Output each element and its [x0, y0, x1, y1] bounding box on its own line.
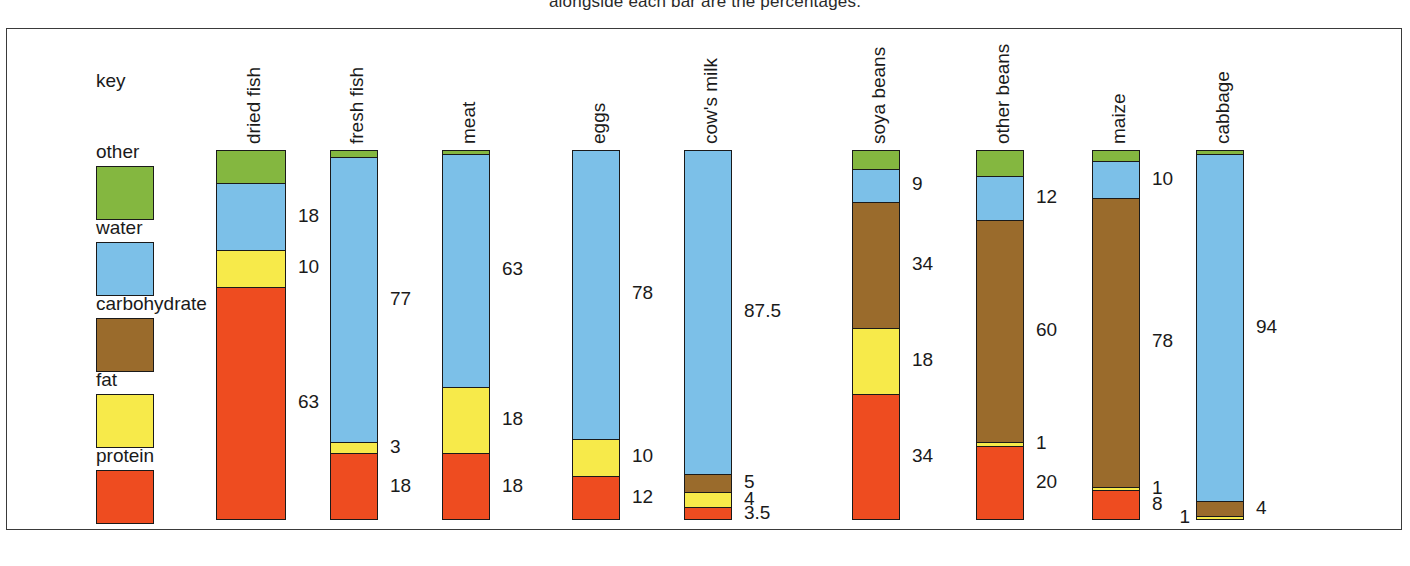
legend-item-label: other — [96, 140, 154, 164]
bar-segment-carbohydrate — [1197, 502, 1243, 517]
legend-item-fat: fat — [96, 368, 154, 448]
bar-value-label: 3 — [390, 436, 401, 458]
bar-segment-other — [217, 151, 285, 184]
stacked-bar — [442, 150, 490, 520]
bar-segment-protein — [443, 454, 489, 520]
legend-swatch-other — [96, 166, 154, 220]
bar-segment-fat — [573, 440, 619, 477]
bar-value-label: 78 — [632, 282, 653, 304]
bar-value-label: 10 — [632, 445, 653, 467]
bar-segment-water — [1093, 162, 1139, 199]
bar-category-label: other beans — [992, 44, 1014, 144]
bar-category-label: soya beans — [868, 47, 890, 144]
legend-item-water: water — [96, 216, 154, 296]
bar-column-dried-fish: dried fish — [216, 150, 286, 520]
bar-value-label: 18 — [912, 349, 933, 371]
legend-item-protein: protein — [96, 444, 154, 524]
legend-item-carbohydrate: carbohydrate — [96, 292, 207, 372]
bar-segment-protein — [1093, 491, 1139, 520]
bar-value-label: 34 — [912, 445, 933, 467]
bar-segment-carbohydrate — [1093, 199, 1139, 488]
legend-item-label: water — [96, 216, 154, 240]
bar-column-soya-beans: soya beans — [852, 150, 900, 520]
bar-segment-other — [977, 151, 1023, 177]
bar-segment-fat — [331, 443, 377, 454]
bar-segment-protein — [217, 288, 285, 520]
bar-value-label: 10 — [298, 256, 319, 278]
bar-column-meat: meat — [442, 150, 490, 520]
legend-item-other: other — [96, 140, 154, 220]
stacked-bar — [216, 150, 286, 520]
bar-segment-water — [1197, 155, 1243, 503]
bar-column-other-beans: other beans — [976, 150, 1024, 520]
bar-column-maize: maize — [1092, 150, 1140, 520]
bar-category-label: fresh fish — [346, 67, 368, 144]
bar-value-label: 87.5 — [744, 300, 781, 322]
bar-segment-fat — [685, 493, 731, 508]
bar-segment-protein — [685, 508, 731, 520]
bar-segment-water — [685, 151, 731, 475]
bar-segment-other — [331, 151, 377, 158]
bar-category-label: maize — [1108, 93, 1130, 144]
bar-segment-water — [853, 170, 899, 203]
bar-segment-other — [1093, 151, 1139, 162]
stacked-bar — [684, 150, 732, 520]
bar-segment-water — [977, 177, 1023, 221]
legend-swatch-protein — [96, 470, 154, 524]
bar-segment-carbohydrate — [685, 475, 731, 494]
bar-value-label: 78 — [1152, 330, 1173, 352]
bar-column-fresh-fish: fresh fish — [330, 150, 378, 520]
bar-value-label: 8 — [1152, 493, 1163, 515]
stacked-bar — [330, 150, 378, 520]
stacked-bar — [572, 150, 620, 520]
page-caption: alongside each bar are the percentages. — [0, 0, 1410, 12]
bar-value-label: 18 — [502, 475, 523, 497]
bar-value-label: 34 — [912, 253, 933, 275]
stacked-bar — [852, 150, 900, 520]
legend-item-label: fat — [96, 368, 154, 392]
bar-value-label: 63 — [502, 258, 523, 280]
bar-value-label: 12 — [1036, 186, 1057, 208]
bar-category-label: eggs — [588, 103, 610, 144]
bar-segment-fat — [1197, 517, 1243, 520]
bar-value-label: 77 — [390, 288, 411, 310]
legend-swatch-fat — [96, 394, 154, 448]
bar-segment-protein — [977, 447, 1023, 520]
bar-segment-protein — [853, 395, 899, 520]
bar-value-label: 9 — [912, 173, 923, 195]
stacked-bar — [976, 150, 1024, 520]
bar-segment-carbohydrate — [977, 221, 1023, 443]
bar-segment-water — [573, 151, 619, 440]
bar-segment-protein — [573, 477, 619, 520]
bar-value-label: 18 — [502, 408, 523, 430]
legend-swatch-water — [96, 242, 154, 296]
bar-value-label: 1 — [1036, 432, 1047, 454]
bar-category-label: dried fish — [243, 67, 265, 144]
stacked-bar — [1196, 150, 1244, 520]
bar-value-label: 4 — [1256, 497, 1267, 519]
bar-category-label: meat — [458, 102, 480, 144]
bar-column-eggs: eggs — [572, 150, 620, 520]
bar-column-cow-s-milk: cow's milk — [684, 150, 732, 520]
legend-title: key — [96, 70, 246, 92]
bar-value-label: 18 — [390, 475, 411, 497]
bar-segment-protein — [331, 454, 377, 520]
bar-value-label: 10 — [1152, 168, 1173, 190]
legend-swatch-carbohydrate — [96, 318, 154, 372]
bar-segment-other — [853, 151, 899, 170]
bar-category-label: cow's milk — [700, 58, 722, 144]
bar-segment-water — [331, 158, 377, 443]
bar-value-label: 18 — [298, 205, 319, 227]
bar-segment-fat — [443, 388, 489, 455]
bar-column-cabbage: cabbage — [1196, 150, 1244, 520]
bar-segment-fat — [217, 251, 285, 288]
bar-value-label: 3.5 — [744, 502, 770, 524]
bar-category-label: cabbage — [1212, 71, 1234, 144]
bar-segment-water — [217, 184, 285, 251]
bar-value-label: 1 — [1166, 506, 1190, 528]
legend-item-label: carbohydrate — [96, 292, 207, 316]
bar-segment-fat — [853, 329, 899, 396]
bar-value-label: 63 — [298, 391, 319, 413]
bar-segment-carbohydrate — [853, 203, 899, 329]
bar-value-label: 60 — [1036, 319, 1057, 341]
